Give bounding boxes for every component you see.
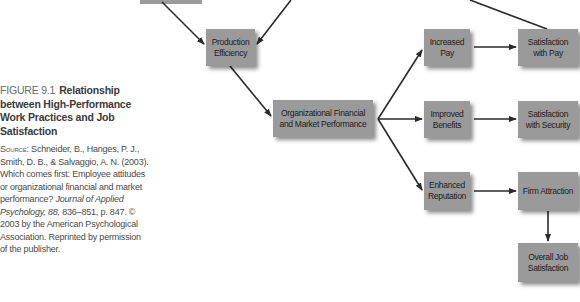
node-firm-attraction: Firm Attraction	[518, 172, 578, 210]
arrow-topleft-to-production	[162, 2, 204, 44]
node-org-performance: Organizational Financial and Market Perf…	[273, 100, 373, 137]
node-overall-job-satisfaction: Overall Job Satisfaction	[518, 243, 578, 282]
arrow-production-to-org	[230, 66, 271, 116]
node-production-efficiency: Production Efficiency	[206, 29, 255, 66]
arrow-org-to-reputation	[378, 119, 422, 190]
arrow-org-to-pay	[378, 50, 422, 119]
arrow-top-to-production	[257, 0, 291, 44]
diagram-arrows	[0, 0, 580, 302]
node-satisfaction-security: Satisfaction with Security	[518, 101, 578, 138]
partial-box-top-left	[140, 0, 202, 4]
node-increased-pay: Increased Pay	[424, 29, 470, 66]
arrow-top-to-satpay	[470, 0, 547, 29]
node-satisfaction-pay: Satisfaction with Pay	[518, 29, 578, 66]
node-improved-benefits: Improved Benefits	[424, 101, 470, 138]
node-enhanced-reputation: Enhanced Reputation	[424, 172, 470, 210]
